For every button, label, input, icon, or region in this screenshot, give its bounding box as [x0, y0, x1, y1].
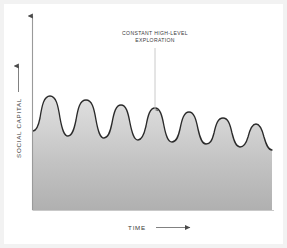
x-axis-label: TIME	[128, 224, 146, 231]
y-axis-label: SOCIAL CAPITAL	[15, 98, 22, 158]
annotation-group: CONSTANT HIGH-LEVEL EXPLORATION	[122, 30, 188, 110]
y-axis-label-group: SOCIAL CAPITAL	[15, 66, 22, 158]
chart-figure: SOCIAL CAPITAL TIME CONSTANT HIGH-LEVEL …	[0, 0, 287, 248]
area-fill	[33, 96, 272, 210]
annotation-line-2: EXPLORATION	[135, 37, 175, 43]
chart-svg: SOCIAL CAPITAL TIME CONSTANT HIGH-LEVEL …	[0, 0, 287, 248]
annotation-line-1: CONSTANT HIGH-LEVEL	[122, 30, 188, 36]
x-axis-label-group: TIME	[128, 224, 190, 231]
area-series	[33, 96, 272, 210]
